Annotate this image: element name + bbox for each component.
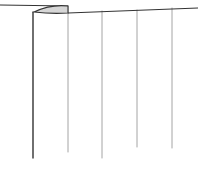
rail-bracket: [34, 6, 68, 14]
rail-main-segment: [68, 8, 198, 13]
line-diagram: [0, 0, 198, 172]
